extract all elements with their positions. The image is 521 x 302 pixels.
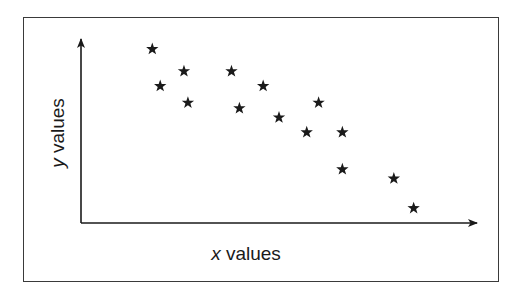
y-axis-label: y values <box>47 83 69 183</box>
star-marker-icon <box>388 172 400 184</box>
star-marker-icon <box>273 111 285 123</box>
star-marker-icon <box>146 43 158 55</box>
x-label-text: values <box>221 243 281 264</box>
star-marker-icon <box>301 126 313 138</box>
star-marker-icon <box>154 80 166 92</box>
y-label-text: values <box>47 98 68 158</box>
y-variable: y <box>47 158 68 168</box>
x-axis-label: x values <box>196 243 296 265</box>
star-marker-icon <box>407 202 419 214</box>
star-marker-icon <box>336 126 348 138</box>
x-variable: x <box>211 243 221 264</box>
data-points <box>146 43 420 214</box>
star-marker-icon <box>233 102 245 114</box>
star-marker-icon <box>182 96 194 108</box>
star-marker-icon <box>257 80 269 92</box>
star-marker-icon <box>178 65 190 77</box>
star-marker-icon <box>225 65 237 77</box>
star-marker-icon <box>312 96 324 108</box>
star-marker-icon <box>336 163 348 175</box>
